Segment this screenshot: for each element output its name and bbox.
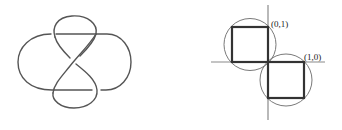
upper-left-square xyxy=(232,27,268,62)
lattice-diagram: (0,1) (1,0) xyxy=(171,0,342,130)
label-0-1: (0,1) xyxy=(271,19,288,29)
knot-diagram xyxy=(0,0,171,130)
label-1-0: (1,0) xyxy=(304,52,321,62)
knot-top-loop-left xyxy=(55,37,70,58)
knot-right-lobe xyxy=(96,34,131,90)
lattice-drawing: (0,1) (1,0) xyxy=(171,0,342,130)
knot-center-diagonal xyxy=(53,34,96,93)
lower-right-square xyxy=(268,62,304,98)
knot-lower-right xyxy=(53,64,97,108)
knot-top-loop xyxy=(54,16,96,56)
knot-drawing xyxy=(0,0,171,130)
knot-left-lobe xyxy=(18,34,92,90)
